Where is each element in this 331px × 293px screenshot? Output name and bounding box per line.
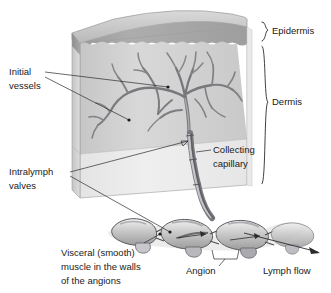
lymph-flow-arrow-head: [309, 247, 320, 254]
label-visceral-muscle-line3: of the angions: [61, 275, 121, 286]
label-visceral-muscle-line2: muscle in the walls: [61, 261, 141, 272]
diagram-canvas: Initial vessels Intralymph valves Collec…: [0, 0, 331, 293]
skin-left-face: [72, 33, 80, 198]
initial-vessels-endpoint-2: [127, 118, 130, 121]
intralymph-valves-endpoint-2: [168, 230, 171, 233]
dermis-brace: [262, 46, 268, 184]
visceral-muscle-endpoint: [158, 232, 161, 235]
label-collecting-capillary-line2: capillary: [213, 158, 248, 169]
angion-chain: [108, 219, 314, 259]
dermis-layer: [80, 42, 247, 155]
angion-pouch-a: [135, 243, 150, 253]
label-intralymph-valves-line1: Intralymph: [9, 166, 53, 177]
label-collecting-capillary-line1: Collecting: [213, 144, 255, 155]
label-visceral-muscle-line1: Visceral (smooth): [61, 247, 135, 258]
initial-vessels-endpoint-1: [166, 85, 169, 88]
epidermis-brace: [262, 22, 268, 41]
label-epidermis: Epidermis: [272, 25, 314, 36]
angion-segment-1: [112, 219, 157, 246]
angion-bracket: [212, 250, 239, 266]
angion-segment-4: [271, 223, 313, 248]
label-lymph-flow: Lymph flow: [263, 265, 311, 276]
label-initial-vessels-line2: vessels: [9, 80, 41, 91]
angion-bracket-stem: [219, 259, 225, 266]
label-angion: Angion: [186, 265, 216, 276]
angion-pouch-c: [241, 248, 257, 258]
label-dermis: Dermis: [272, 96, 302, 107]
angion-pouch-b: [186, 247, 202, 257]
lymphatic-diagram-figure: Initial vessels Intralymph valves Collec…: [0, 0, 331, 293]
label-initial-vessels-line1: Initial: [9, 66, 31, 77]
angion-bracket-shape: [212, 250, 239, 259]
label-intralymph-valves-line2: valves: [9, 180, 36, 191]
